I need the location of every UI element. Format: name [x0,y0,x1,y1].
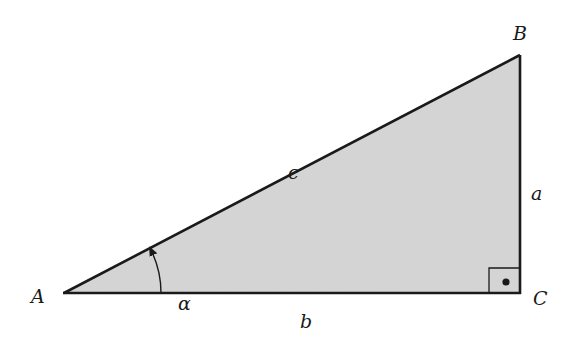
vertex-label-a: A [29,285,45,307]
side-label-a: a [531,182,542,204]
right-triangle-diagram: A B C a b c α [0,0,578,338]
angle-label-alpha: α [178,292,191,314]
right-angle-dot [502,278,509,285]
side-label-b: b [300,310,312,332]
vertex-label-b: B [512,22,527,44]
side-label-c: c [288,161,299,183]
vertex-label-c: C [533,287,548,309]
